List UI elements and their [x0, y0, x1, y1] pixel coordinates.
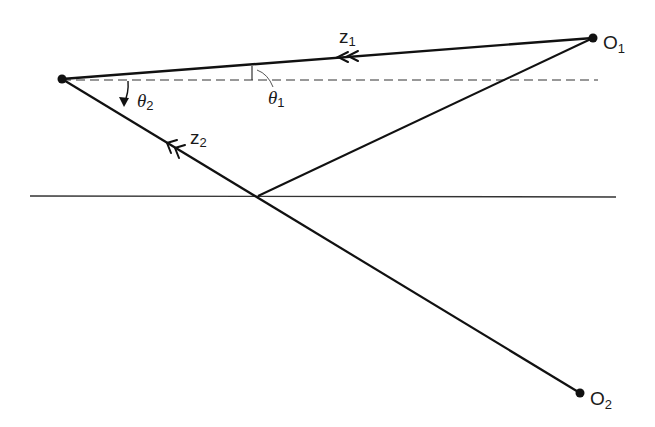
- point-o1: [589, 34, 598, 43]
- label-z2: z2: [190, 127, 207, 150]
- label-o1: O1: [603, 32, 625, 56]
- double-arrow-z2-icon: [167, 140, 185, 158]
- label-theta1: θ1: [268, 87, 285, 110]
- label-o2: O2: [590, 388, 612, 412]
- theta2-arrowhead-icon: [119, 97, 129, 107]
- label-z1: z1: [339, 26, 356, 49]
- left-point: [58, 75, 67, 84]
- surface-line: [30, 196, 616, 197]
- theta1-leader: [257, 70, 273, 87]
- ray-diagram: O1 O2 z1 z2 θ1 θ2: [0, 0, 655, 427]
- label-theta2: θ2: [137, 90, 154, 113]
- ray-z2: [62, 79, 580, 393]
- point-o2: [576, 389, 585, 398]
- ray-z1: [62, 38, 593, 79]
- ray-o1-to-surface: [258, 38, 593, 196]
